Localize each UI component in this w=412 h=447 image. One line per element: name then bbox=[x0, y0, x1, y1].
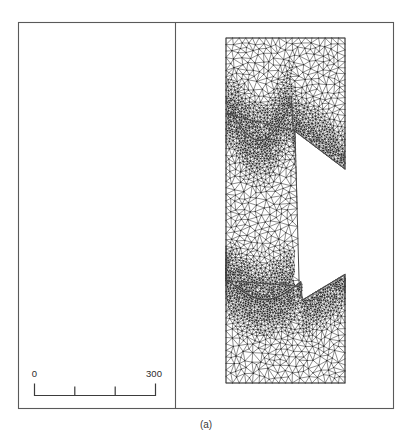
figure-canvas: 0 300 (a) bbox=[0, 0, 412, 447]
mesh-group bbox=[226, 38, 345, 383]
scale-max-label: 300 bbox=[146, 368, 162, 379]
scale-min-label: 0 bbox=[32, 368, 37, 379]
mesh-triangle-edges bbox=[226, 38, 345, 383]
scale-bar-ticks bbox=[35, 384, 156, 396]
figure-container: 0 300 (a) bbox=[0, 0, 412, 447]
panel-caption: (a) bbox=[200, 419, 212, 430]
scale-bar: 0 300 bbox=[32, 368, 162, 396]
